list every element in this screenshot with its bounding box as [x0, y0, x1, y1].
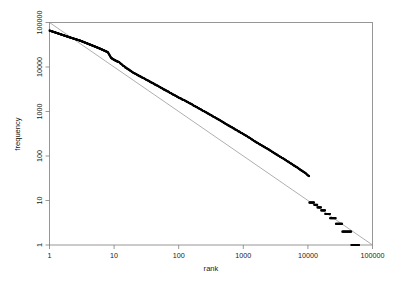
y-tick-label: 100000 — [35, 11, 44, 35]
y-tick-label: 100 — [35, 150, 44, 162]
x-tick-label: 1 — [48, 251, 52, 260]
data-point — [341, 223, 343, 225]
x-tick-label: 10 — [110, 251, 118, 260]
y-axis-title: frequency — [13, 117, 22, 151]
chart-container: 110100100010000100000 110100100010000100… — [0, 0, 397, 284]
data-point — [351, 231, 353, 233]
data-point — [324, 209, 326, 211]
y-tick-label: 1000 — [35, 104, 44, 120]
x-tick-label: 1000 — [235, 251, 251, 260]
y-tick-label: 1 — [35, 243, 44, 247]
zipf-log-log-plot: 110100100010000100000 110100100010000100… — [0, 0, 397, 284]
x-axis-title: rank — [204, 264, 219, 273]
x-tick-label: 10000 — [298, 251, 318, 260]
data-point — [313, 202, 315, 204]
data-point — [309, 175, 311, 177]
data-point — [320, 206, 322, 208]
data-point — [335, 217, 337, 219]
data-point — [358, 244, 360, 246]
x-tick-label: 100000 — [361, 251, 385, 260]
chart-background — [0, 0, 397, 284]
y-tick-label: 10000 — [35, 57, 44, 77]
data-point — [329, 213, 331, 215]
data-point — [317, 204, 319, 206]
x-tick-label: 100 — [173, 251, 185, 260]
y-tick-label: 10 — [35, 197, 44, 205]
